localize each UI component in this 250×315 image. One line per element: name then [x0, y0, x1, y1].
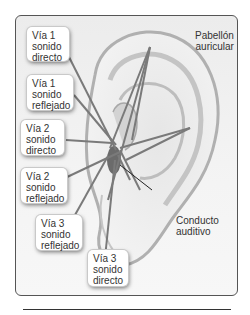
label-via3-directo: Vía 3 sonido directo: [88, 250, 128, 286]
label-pabellon-auricular: Pabellón auricular: [195, 30, 234, 52]
label-conducto-auditivo: Conducto auditivo: [176, 215, 219, 237]
label-via3-reflejado: Vía 3 sonido reflejado: [36, 215, 82, 250]
label-via1-reflejado: Vía 1 sonido reflejado: [27, 75, 73, 110]
bottom-divider: [23, 309, 231, 310]
label-via2-directo: Vía 2 sonido directo: [21, 120, 64, 155]
label-via1-directo: Vía 1 sonido directo: [27, 27, 69, 61]
label-via2-reflejado: Vía 2 sonido reflejado: [21, 168, 67, 203]
